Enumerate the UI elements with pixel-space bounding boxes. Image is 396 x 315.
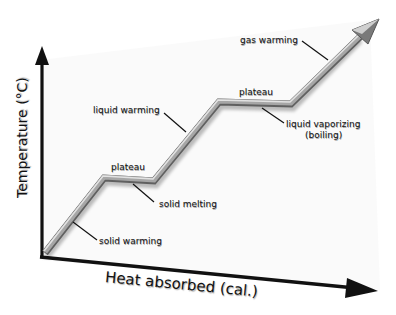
label-plateau-boiling: plateau	[239, 87, 273, 97]
label-solid-warming: solid warming	[99, 236, 162, 246]
label-liquid-vaporizing: liquid vaporizing	[286, 119, 360, 129]
background-sheet	[40, 20, 380, 290]
label-boiling: (boiling)	[305, 130, 342, 140]
label-plateau-melting: plateau	[111, 162, 145, 172]
diagram-graphics	[0, 0, 396, 315]
label-liquid-warming: liquid warming	[93, 105, 160, 115]
y-axis-label: Temperature (°C)	[14, 78, 30, 198]
heating-curve-diagram: Temperature (°C) Heat absorbed (cal.) so…	[0, 0, 396, 315]
y-axis-arrowhead-icon	[35, 46, 49, 65]
label-gas-warming: gas warming	[240, 35, 298, 45]
label-solid-melting: solid melting	[159, 199, 217, 209]
